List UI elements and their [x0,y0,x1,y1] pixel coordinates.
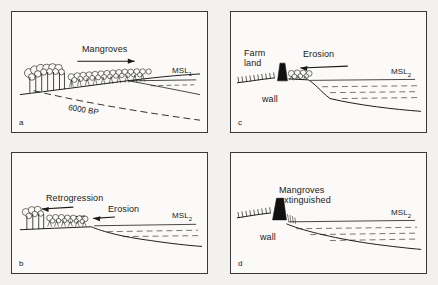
panel-d: Mangroves extinguished wall MSL2 d [230,152,427,274]
panel-d-msl-label: MSL2 [391,208,411,221]
panel-a-letter: a [19,118,23,127]
panel-c: Farm land Erosion wall MSL2 c [230,11,427,133]
panel-c-letter: c [238,118,242,127]
panel-b-letter: b [19,259,23,268]
panel-c-erosion-label: Erosion [303,49,334,59]
panel-c-farmland-label: Farm land [244,48,265,68]
panel-a-mangroves-label: Mangroves [82,44,127,54]
msl-text: MSL [391,67,408,76]
msl-text: MSL [391,208,408,217]
msl-subscript: 1 [189,71,192,77]
panel-d-letter: d [238,259,242,268]
panel-d-wall-label: wall [260,232,276,242]
msl-text: MSL [172,211,189,220]
panel-c-msl-label: MSL2 [391,67,411,80]
panel-d-mangroves-extinguished-label: Mangroves extinguished [279,185,331,205]
panel-b: Retrogression Erosion MSL2 b [11,152,208,274]
msl-text: MSL [172,66,189,75]
sea-wall-c [278,63,288,81]
panel-b-msl-label: MSL2 [172,211,192,224]
panel-b-retrogression-label: Retrogression [46,193,103,203]
panel-b-erosion-label: Erosion [108,204,139,214]
msl-subscript: 2 [408,213,411,219]
mangrove-sea-level-figure: Mangroves MSL1 6000 BP a [0,0,438,285]
panel-c-wall-label: wall [262,94,278,104]
msl-subscript: 2 [408,72,411,78]
msl-subscript: 2 [189,216,192,222]
panel-a-msl-label: MSL1 [172,66,192,79]
panel-a: Mangroves MSL1 6000 BP a [11,11,208,133]
